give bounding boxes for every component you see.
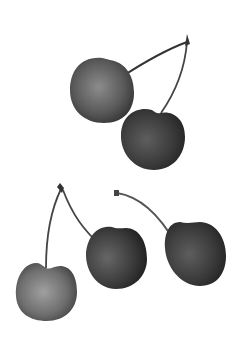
- stem: [46, 189, 61, 268]
- cherries-illustration: [0, 0, 244, 357]
- cherry: [165, 222, 226, 286]
- stem-tip: [114, 190, 119, 196]
- top-cherry-pair: [70, 34, 190, 170]
- cherry: [121, 109, 185, 170]
- stem-tip: [185, 34, 190, 46]
- stem: [123, 42, 187, 76]
- cherry: [16, 263, 77, 321]
- bottom-cherry-pair: [16, 183, 147, 321]
- cherry: [70, 58, 134, 123]
- cherry: [86, 227, 147, 289]
